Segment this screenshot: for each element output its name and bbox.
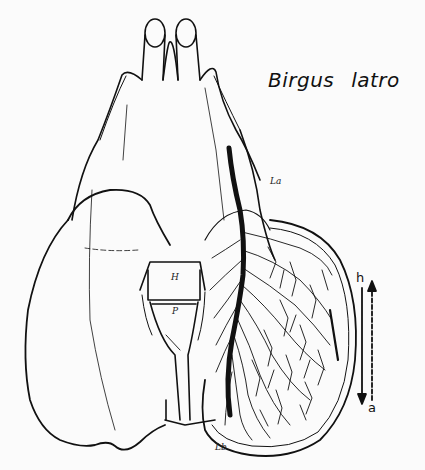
flow-arrow-up (368, 281, 376, 400)
label-lower-lung: Lb (215, 442, 227, 452)
label-flow-up: a (368, 400, 376, 415)
label-pericardium: P (172, 306, 178, 316)
label-flow-down: h (356, 270, 364, 285)
anatomical-figure: Birgus latro La H P Lb h a (0, 0, 425, 470)
carapace-outline (72, 68, 260, 220)
central-column (140, 262, 215, 425)
figure-title: Birgus latro (268, 68, 400, 92)
interior-lines (89, 88, 224, 430)
label-upper-lung: La (270, 176, 281, 186)
left-lobe (25, 190, 170, 450)
eyestalks (142, 19, 200, 80)
pulmonary-vessel (228, 148, 244, 415)
flow-arrow-down (358, 288, 366, 404)
label-heart: H (171, 272, 179, 282)
